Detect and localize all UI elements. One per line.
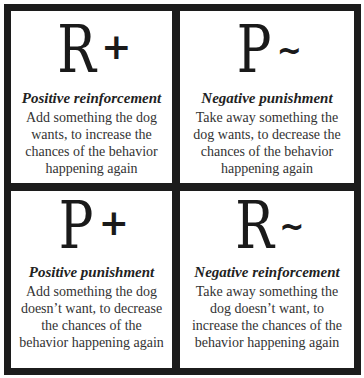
- quadrant-description: Add something the dog doesn’t want, to d…: [11, 283, 172, 351]
- description-line: Add something the dog: [11, 283, 172, 300]
- quadrant-positive-punishment: P + Positive punishment Add something th…: [11, 191, 172, 368]
- quadrant-positive-reinforcement: R + Positive reinforcement Add something…: [11, 11, 172, 183]
- quadrant-grid: R + Positive reinforcement Add something…: [4, 4, 361, 375]
- symbol-r-minus: R ~: [180, 195, 354, 257]
- symbol-letter: R: [57, 19, 94, 81]
- quadrant-description: Add something the dog wants, to increase…: [11, 109, 172, 177]
- description-line: chances of the behavior: [180, 143, 354, 160]
- description-line: Add something the dog: [11, 109, 172, 126]
- quadrant-negative-reinforcement: R ~ Negative reinforcement Take away som…: [180, 191, 354, 368]
- plus-icon: +: [101, 29, 131, 65]
- quadrant-title: Negative reinforcement: [180, 263, 354, 281]
- plus-icon: +: [99, 205, 129, 241]
- quadrant-description: Take away something the dog doesn’t want…: [180, 283, 354, 351]
- symbol-p-minus: P ~: [180, 19, 354, 81]
- symbol-r-plus: R +: [11, 19, 172, 81]
- description-line: increase the chances of the: [180, 317, 354, 334]
- description-line: chances of the behavior: [11, 143, 172, 160]
- minus-icon: ~: [277, 31, 302, 71]
- quadrant-title: Positive punishment: [11, 263, 172, 281]
- description-line: happening again: [180, 160, 354, 177]
- quadrant-description: Take away something the dog wants, to de…: [180, 109, 354, 177]
- description-line: the chances of the: [11, 317, 172, 334]
- description-line: Take away something the: [180, 283, 354, 300]
- description-line: wants, to increase the: [11, 126, 172, 143]
- symbol-p-plus: P +: [11, 195, 172, 257]
- description-line: happening again: [11, 160, 172, 177]
- symbol-letter: R: [235, 195, 272, 257]
- description-line: behavior happening again: [11, 334, 172, 351]
- description-line: behavior happening again: [180, 334, 354, 351]
- quadrant-negative-punishment: P ~ Negative punishment Take away someth…: [180, 11, 354, 183]
- description-line: dog doesn’t want, to: [180, 300, 354, 317]
- quadrant-title: Positive reinforcement: [11, 89, 172, 107]
- description-line: doesn’t want, to decrease: [11, 300, 172, 317]
- quadrant-title: Negative punishment: [180, 89, 354, 107]
- description-line: dog wants, to decrease the: [180, 126, 354, 143]
- symbol-letter: P: [59, 195, 92, 257]
- symbol-letter: P: [237, 19, 270, 81]
- minus-icon: ~: [279, 207, 304, 247]
- description-line: Take away something the: [180, 109, 354, 126]
